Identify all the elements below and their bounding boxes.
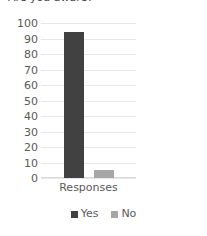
bar-chart: Are you aware? 1009080706050403020100 Re… <box>0 0 207 236</box>
bar-yes <box>64 32 84 178</box>
legend-item[interactable]: Yes <box>71 208 99 220</box>
gridline <box>41 147 136 148</box>
gridline <box>41 178 136 179</box>
x-axis-category-label: Responses <box>41 181 136 194</box>
y-axis-tick-label: 30 <box>4 127 38 138</box>
y-axis-tick-label: 60 <box>4 80 38 91</box>
bar-no <box>94 170 114 178</box>
legend-label: Yes <box>81 208 99 220</box>
gridline <box>41 54 136 55</box>
chart-legend: YesNo <box>0 208 207 220</box>
gridline <box>41 163 136 164</box>
legend-swatch-icon <box>111 211 118 218</box>
y-axis-tick-label: 70 <box>4 65 38 76</box>
y-axis-tick-label: 10 <box>4 158 38 169</box>
x-axis-baseline <box>41 177 136 178</box>
y-axis-tick-label: 50 <box>4 96 38 107</box>
gridline <box>41 70 136 71</box>
plot-area <box>41 23 136 178</box>
legend-item[interactable]: No <box>111 208 136 220</box>
chart-title: Are you aware? <box>8 0 198 5</box>
legend-label: No <box>121 208 136 220</box>
y-axis-tick-label: 0 <box>4 173 38 184</box>
y-axis-tick-label: 20 <box>4 142 38 153</box>
gridline <box>41 39 136 40</box>
gridline <box>41 132 136 133</box>
gridline <box>41 85 136 86</box>
gridline <box>41 101 136 102</box>
y-axis-tick-label: 90 <box>4 34 38 45</box>
legend-swatch-icon <box>71 211 78 218</box>
y-axis-tick-label: 80 <box>4 49 38 60</box>
y-axis-tick-label: 100 <box>4 18 38 29</box>
gridline <box>41 116 136 117</box>
y-axis-tick-labels: 1009080706050403020100 <box>0 23 38 178</box>
gridline <box>41 23 136 24</box>
y-axis-tick-label: 40 <box>4 111 38 122</box>
